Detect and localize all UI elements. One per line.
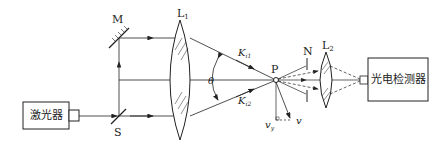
particle-label: P: [271, 63, 279, 76]
detector-label: 光电检测器: [371, 72, 426, 86]
lens2-label: L2: [322, 39, 334, 53]
theta-label: θ: [208, 75, 214, 86]
vy-label: vy: [265, 119, 275, 132]
ki2-label: Ki2: [237, 95, 251, 107]
particle-icon: [274, 78, 279, 83]
aperture-label: N: [303, 45, 313, 58]
lens1-label: L1: [177, 7, 189, 21]
v-label: v: [296, 115, 302, 126]
laser-box: 激光器: [23, 102, 79, 129]
detector-box: 光电检测器: [360, 58, 428, 101]
splitter-label: S: [114, 126, 122, 139]
ldv-diagram: 激光器 S M L1 θ Ki1 Ki2: [0, 0, 439, 147]
splitter-icon: [111, 109, 126, 124]
lens2-icon: [320, 52, 332, 108]
laser-label: 激光器: [30, 108, 63, 122]
ki1-label: Ki1: [237, 47, 251, 59]
mirror-label: M: [112, 13, 123, 26]
